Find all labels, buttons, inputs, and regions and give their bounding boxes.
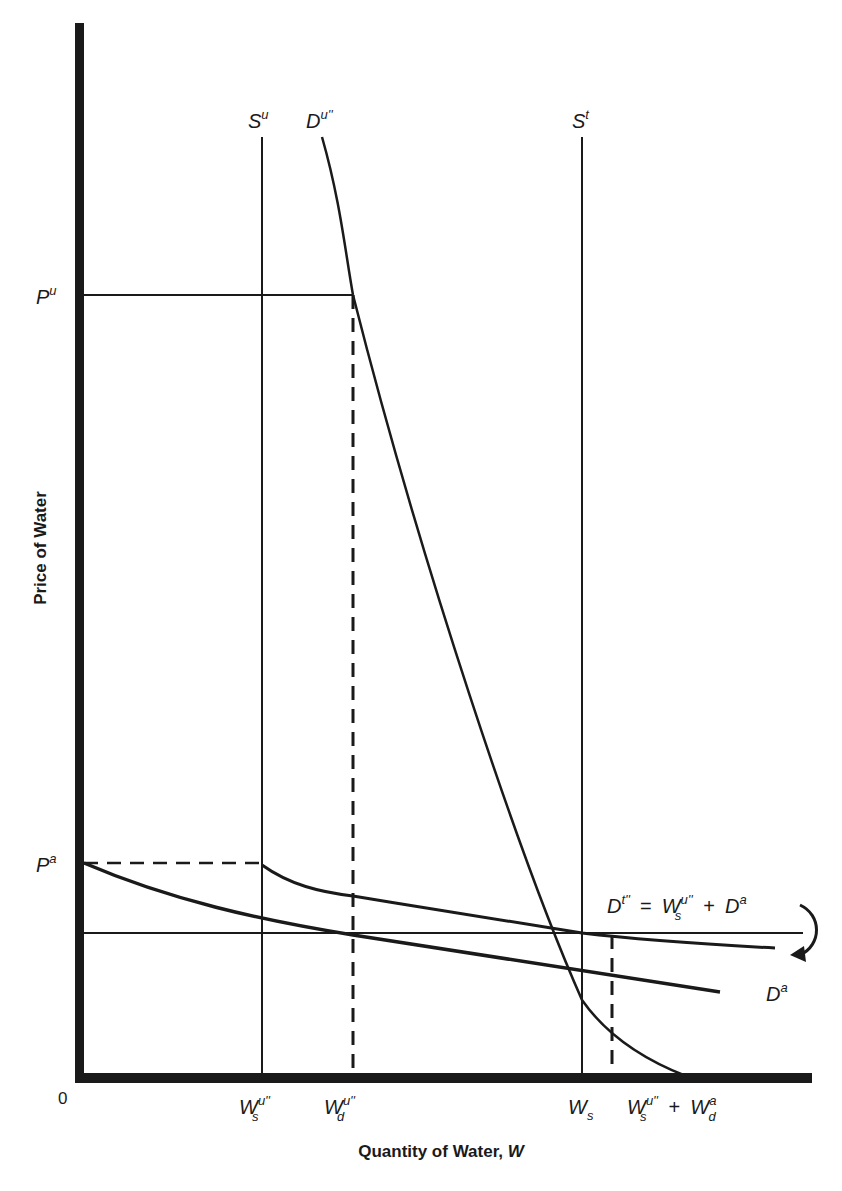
- axes: [75, 23, 812, 1083]
- label-ws: Ws: [568, 1096, 594, 1123]
- demand-curve-dt: [262, 865, 775, 948]
- label-dt-equation: Dt''=Wu''s+Da: [607, 892, 747, 923]
- y-axis-title: Price of Water: [31, 491, 50, 605]
- label-ws-plus-wd: Wu''s+Wad: [627, 1093, 716, 1124]
- label-wd-u: Wu''d: [324, 1093, 356, 1124]
- label-da: Da: [766, 980, 788, 1005]
- supply-demand-chart: Su Du'' St Pu Pa Dt''=Wu''s+Da Da 0 Wu''…: [0, 0, 842, 1191]
- label-ws-u: Wu''s: [239, 1093, 271, 1124]
- origin-label: 0: [58, 1089, 67, 1108]
- label-pu: Pu: [36, 283, 57, 308]
- demand-curve-da: [84, 863, 720, 992]
- y-axis: [75, 23, 84, 1082]
- label-du: Du'': [306, 107, 333, 132]
- label-st: St: [572, 107, 590, 132]
- x-axis: [75, 1073, 812, 1083]
- label-pa: Pa: [36, 851, 57, 876]
- x-axis-title: Quantity of Water, W: [358, 1142, 526, 1161]
- demand-curve-du: [322, 137, 686, 1076]
- label-su: Su: [248, 107, 269, 132]
